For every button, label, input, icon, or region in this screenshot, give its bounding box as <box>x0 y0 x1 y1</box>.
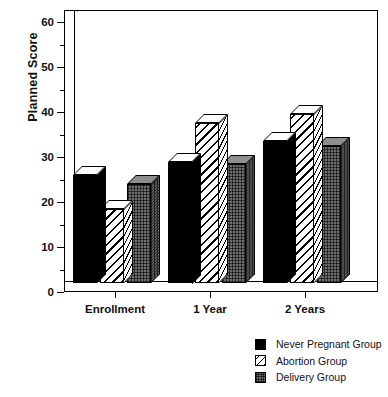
y-axis-tick <box>57 157 64 158</box>
bar-side <box>192 153 201 284</box>
y-axis-tick <box>57 67 64 68</box>
y-axis-tick-label: 0 <box>28 286 54 298</box>
y-axis-minor-tick <box>60 225 64 226</box>
bar-front <box>73 175 97 283</box>
legend-label: Delivery Group <box>276 371 346 383</box>
bar-front <box>263 141 287 283</box>
y-axis-tick <box>57 112 64 113</box>
y-axis-minor-tick <box>60 135 64 136</box>
legend-item-abortion: Abortion Group <box>255 355 382 367</box>
legend-item-never-pregnant: Never Pregnant Group <box>255 338 382 350</box>
y-axis-tick-label: 30 <box>28 151 54 163</box>
bar-side <box>124 200 133 283</box>
chart-legend: Never Pregnant Group Abortion Group Deli… <box>255 338 382 388</box>
bar-front <box>168 162 192 284</box>
bar-side <box>151 175 160 283</box>
legend-swatch-black-icon <box>255 339 266 350</box>
chart-figure: Planned Score 0102030405060 Enrollment1 … <box>0 0 388 397</box>
legend-item-delivery: Delivery Group <box>255 371 382 383</box>
bar-side <box>219 114 228 283</box>
y-axis-tick <box>57 247 64 248</box>
x-axis-label: Enrollment <box>85 303 145 315</box>
y-axis-minor-tick <box>60 180 64 181</box>
y-axis-tick-label: 60 <box>28 16 54 28</box>
legend-label: Abortion Group <box>276 355 347 367</box>
legend-swatch-dots-icon <box>255 372 266 383</box>
y-axis-tick <box>57 292 64 293</box>
y-axis-tick-label: 50 <box>28 61 54 73</box>
y-axis-tick <box>57 202 64 203</box>
y-axis-tick-label: 40 <box>28 106 54 118</box>
bar-side <box>287 132 296 283</box>
bar-side <box>246 155 255 283</box>
y-axis-tick-label: 20 <box>28 196 54 208</box>
plot-area <box>64 10 378 292</box>
y-axis-minor-tick <box>60 90 64 91</box>
bar-never-pregnant-1 <box>73 11 97 293</box>
bar-never-pregnant-3 <box>263 11 287 293</box>
x-axis-label: 2 Years <box>285 303 325 315</box>
legend-swatch-hatch-icon <box>255 355 266 366</box>
y-axis-tick-label: 10 <box>28 241 54 253</box>
x-axis-label: 1 Year <box>193 303 227 315</box>
y-axis-minor-tick <box>60 45 64 46</box>
bar-side <box>341 137 350 283</box>
bar-side <box>97 166 106 283</box>
y-axis-tick <box>57 22 64 23</box>
y-axis-minor-tick <box>60 270 64 271</box>
bar-never-pregnant-2 <box>168 11 192 293</box>
legend-label: Never Pregnant Group <box>276 338 382 350</box>
bar-side <box>314 105 323 283</box>
